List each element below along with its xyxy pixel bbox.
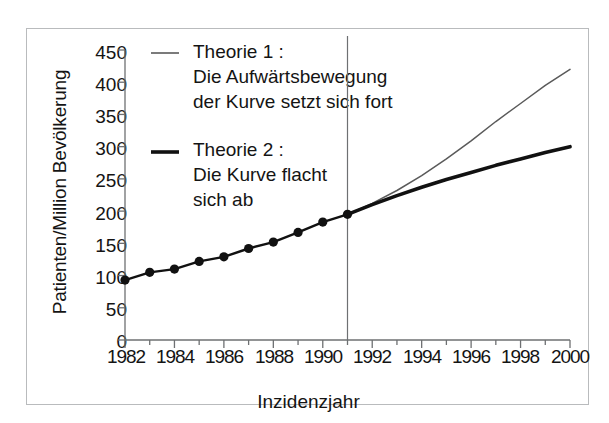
series-line-theorie-1 [348,69,571,214]
data-point-marker [318,217,327,226]
chart-axes [118,36,570,348]
series-line-theorie-2 [348,147,571,215]
chart-series [120,69,570,284]
data-point-marker [170,265,179,274]
data-point-marker [244,244,253,253]
data-point-marker [343,210,352,219]
series-line-observed [125,214,348,280]
data-point-marker [145,268,154,277]
data-point-marker [120,275,129,284]
data-point-marker [195,257,204,266]
chart-plot-area [0,0,609,423]
data-point-marker [269,237,278,246]
data-point-marker [219,252,228,261]
data-point-marker [293,228,302,237]
